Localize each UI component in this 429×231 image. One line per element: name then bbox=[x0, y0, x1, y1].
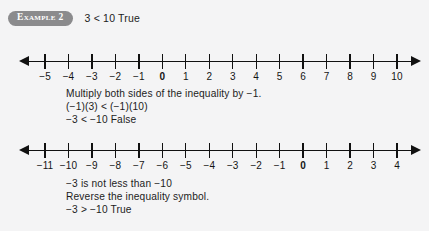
axis-tick bbox=[162, 143, 163, 158]
axis-tick-label: −4 bbox=[203, 160, 215, 171]
axis-tick bbox=[302, 143, 303, 158]
axis-tick-label: 3 bbox=[371, 160, 377, 171]
axis-tick-label: 0 bbox=[159, 71, 165, 82]
axis-tick-label: −3 bbox=[227, 160, 239, 171]
example-statement: 3 < 10 True bbox=[85, 12, 141, 24]
axis-tick bbox=[326, 54, 327, 69]
axis-tick bbox=[279, 143, 280, 158]
axis-tick-label: 8 bbox=[347, 71, 353, 82]
axis-tick-label: 0 bbox=[300, 160, 306, 171]
axis-tick bbox=[44, 54, 45, 69]
axis-tick bbox=[115, 143, 116, 158]
axis-tick bbox=[349, 54, 350, 69]
axis-tick-label: 3 bbox=[230, 71, 236, 82]
axis-tick bbox=[68, 54, 69, 69]
axis-tick bbox=[373, 143, 374, 158]
axis-tick bbox=[44, 143, 45, 158]
right-arrow-icon bbox=[411, 56, 421, 66]
axis-tick-label: 1 bbox=[324, 160, 330, 171]
axis-tick bbox=[396, 143, 397, 158]
axis-tick-label: 5 bbox=[277, 71, 283, 82]
bottom-line-2: Reverse the inequality symbol. bbox=[66, 190, 209, 203]
middle-explanation-block: Multiply both sides of the inequality by… bbox=[66, 87, 261, 127]
axis-tick-label: 10 bbox=[391, 71, 402, 82]
axis-tick bbox=[232, 54, 233, 69]
bottom-line-1: −3 is not less than −10 bbox=[66, 177, 209, 190]
axis-line bbox=[28, 61, 412, 62]
axis-tick-label: −3 bbox=[86, 71, 98, 82]
axis-tick-label: 1 bbox=[183, 71, 189, 82]
axis-tick-label: 9 bbox=[371, 71, 377, 82]
axis-tick bbox=[185, 54, 186, 69]
axis-tick bbox=[349, 143, 350, 158]
example-badge: Example 2 bbox=[8, 11, 73, 26]
axis-tick-label: −9 bbox=[86, 160, 98, 171]
axis-tick bbox=[185, 143, 186, 158]
axis-tick bbox=[209, 54, 210, 69]
axis-tick-label: 2 bbox=[206, 71, 212, 82]
axis-tick bbox=[115, 54, 116, 69]
axis-tick bbox=[279, 54, 280, 69]
axis-tick-label: 4 bbox=[253, 71, 259, 82]
middle-line-1: Multiply both sides of the inequality by… bbox=[66, 87, 261, 100]
axis-tick bbox=[209, 143, 210, 158]
axis-tick bbox=[138, 54, 139, 69]
axis-tick bbox=[232, 143, 233, 158]
axis-tick-label: −7 bbox=[133, 160, 145, 171]
axis-tick bbox=[138, 143, 139, 158]
axis-tick-label: −6 bbox=[157, 160, 169, 171]
axis-tick-label: 2 bbox=[347, 160, 353, 171]
axis-tick-label: −10 bbox=[60, 160, 77, 171]
axis-tick-label: −8 bbox=[110, 160, 122, 171]
number-line-top: −5−4−3−2−1012345678910 bbox=[0, 47, 429, 87]
axis-tick-label: −1 bbox=[133, 71, 145, 82]
axis-tick-label: 4 bbox=[394, 160, 400, 171]
axis-tick bbox=[396, 54, 397, 69]
bottom-explanation-block: −3 is not less than −10 Reverse the ineq… bbox=[66, 177, 209, 217]
axis-tick-label: −5 bbox=[180, 160, 192, 171]
right-arrow-icon bbox=[411, 145, 421, 155]
axis-tick-label: 6 bbox=[300, 71, 306, 82]
axis-tick-label: −2 bbox=[250, 160, 262, 171]
axis-tick bbox=[373, 54, 374, 69]
axis-tick bbox=[162, 54, 163, 69]
bottom-line-3: −3 > −10 True bbox=[66, 203, 209, 216]
axis-tick-label: −2 bbox=[110, 71, 122, 82]
middle-line-3: −3 < −10 False bbox=[66, 113, 261, 126]
axis-tick-label: −4 bbox=[63, 71, 75, 82]
example-header-row: Example 2 3 < 10 True bbox=[8, 11, 140, 26]
axis-line bbox=[28, 150, 412, 151]
axis-tick bbox=[302, 54, 303, 69]
axis-tick-label: 7 bbox=[324, 71, 330, 82]
axis-tick bbox=[256, 54, 257, 69]
axis-tick bbox=[326, 143, 327, 158]
middle-line-2: (−1)(3) < (−1)(10) bbox=[66, 100, 261, 113]
axis-tick bbox=[91, 143, 92, 158]
axis-tick-label: −5 bbox=[39, 71, 51, 82]
axis-tick bbox=[91, 54, 92, 69]
axis-tick-label: −11 bbox=[37, 160, 54, 171]
lesson-figure-page: Example 2 3 < 10 True −5−4−3−2−101234567… bbox=[0, 0, 429, 231]
axis-tick-label: −1 bbox=[274, 160, 286, 171]
axis-tick bbox=[256, 143, 257, 158]
number-line-bottom: −11−10−9−8−7−6−5−4−3−2−101234 bbox=[0, 136, 429, 176]
axis-tick bbox=[68, 143, 69, 158]
